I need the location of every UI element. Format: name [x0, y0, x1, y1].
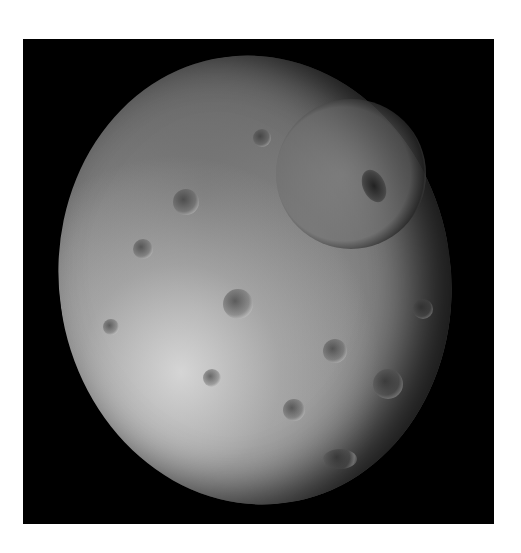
crater [203, 369, 221, 387]
large-impact-crater [276, 99, 426, 249]
crater [103, 319, 119, 335]
crater [223, 289, 253, 319]
crater [373, 369, 403, 399]
crater [323, 339, 347, 363]
crater [323, 449, 357, 469]
moon-body [30, 39, 481, 524]
crater [173, 189, 199, 215]
crater [133, 239, 153, 259]
crater [283, 399, 305, 421]
crater [253, 129, 271, 147]
photo-frame [23, 39, 494, 524]
crater [413, 299, 433, 319]
